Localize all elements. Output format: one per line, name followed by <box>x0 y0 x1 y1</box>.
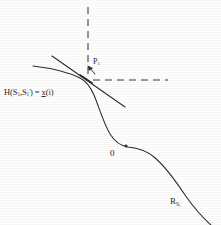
figure-canvas: H(S1,S1') = x(i) P1 0 RSi' <box>0 0 221 225</box>
descending-s-curve <box>33 66 212 225</box>
label-zero: 0 <box>110 149 115 158</box>
label-h-equation: H(S1,S1') = x(i) <box>4 88 53 98</box>
h-equation-close: ) = <box>30 87 41 97</box>
p1-arrowhead-icon <box>88 66 93 70</box>
label-p1: P1 <box>93 58 100 67</box>
label-region: RSi' <box>170 197 181 208</box>
curve-dot-marker <box>125 145 128 148</box>
figure-drawing <box>0 0 221 225</box>
h-equation-x-arg: (i) <box>46 87 54 97</box>
h-equation-prefix: H(S <box>4 87 17 97</box>
region-prime: ' <box>180 201 181 205</box>
p1-sub: 1 <box>97 61 99 66</box>
h-equation-mid: ,S <box>20 87 27 97</box>
region-sub-base: Si' <box>176 201 181 207</box>
